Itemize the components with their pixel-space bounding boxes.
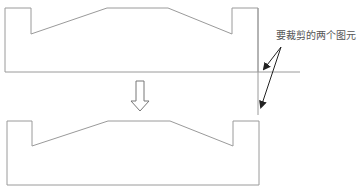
annotation-arrow-to-vertical — [261, 47, 281, 107]
annotation-arrow-to-horizontal — [264, 47, 281, 69]
after-shape-outline — [7, 121, 259, 185]
annotation-label: 要裁剪的两个图元 — [276, 27, 356, 42]
before-shape-outline — [5, 8, 258, 72]
transform-down-arrow-icon — [131, 81, 149, 111]
